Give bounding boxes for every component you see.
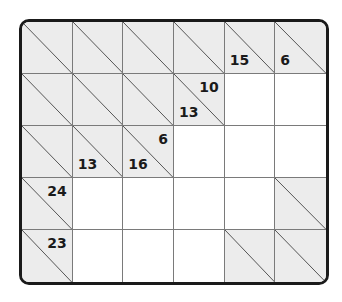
block-cell [73,74,124,126]
block-cell [275,230,326,282]
across-clue: 23 [47,236,66,250]
down-clue: 16 [128,157,147,171]
entry-cell[interactable] [174,230,225,282]
diagonal-divider-icon [275,230,326,282]
clue-cell: 13 [73,126,124,178]
block-cell [275,178,326,230]
across-clue: 6 [158,132,168,146]
diagonal-divider-icon [73,22,123,73]
clue-cell: 15 [225,22,276,74]
entry-cell[interactable] [123,230,174,282]
entry-cell[interactable] [123,178,174,230]
entry-cell[interactable] [225,74,276,126]
entry-cell[interactable] [275,74,326,126]
block-cell [174,22,225,74]
block-cell [123,74,174,126]
down-clue: 13 [78,157,97,171]
kakuro-board: 1561013136162423 [19,19,329,285]
entry-cell[interactable] [225,126,276,178]
entry-cell[interactable] [275,126,326,178]
diagonal-divider-icon [174,22,224,73]
entry-cell[interactable] [73,230,124,282]
diagonal-divider-icon [22,126,72,177]
block-cell [123,22,174,74]
block-cell [73,22,124,74]
entry-cell[interactable] [73,178,124,230]
diagonal-divider-icon [275,178,326,229]
diagonal-divider-icon [123,74,173,125]
diagonal-divider-icon [22,74,72,125]
entry-cell[interactable] [174,178,225,230]
down-clue: 13 [179,105,198,119]
across-clue: 10 [199,80,218,94]
diagonal-divider-icon [22,22,72,73]
clue-cell: 23 [22,230,73,282]
across-clue: 24 [47,184,66,198]
diagonal-divider-icon [73,74,123,125]
down-clue: 6 [280,53,290,67]
clue-cell: 1013 [174,74,225,126]
block-cell [225,230,276,282]
block-cell [22,126,73,178]
diagonal-divider-icon [225,230,275,282]
clue-cell: 24 [22,178,73,230]
entry-cell[interactable] [225,178,276,230]
block-cell [22,22,73,74]
diagonal-divider-icon [123,22,173,73]
clue-cell: 6 [275,22,326,74]
down-clue: 15 [230,53,249,67]
block-cell [22,74,73,126]
clue-cell: 616 [123,126,174,178]
kakuro-grid: 1561013136162423 [22,22,326,282]
entry-cell[interactable] [174,126,225,178]
